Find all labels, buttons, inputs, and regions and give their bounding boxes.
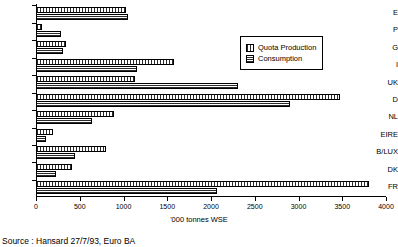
- x-axis-title: '000 tonnes WSE: [0, 215, 398, 224]
- y-axis-label-nl: NL: [364, 113, 398, 121]
- source-note: Source : Hansard 27/7/93, Euro BA: [2, 236, 135, 246]
- bar-chart: EPGIUKDNLEIREB/LUXDKFR 05001000150020002…: [0, 0, 398, 247]
- x-axis-tick-label: 3500: [334, 203, 350, 211]
- x-axis-tick-label: 500: [74, 203, 86, 211]
- bar-i-quota-production: [36, 59, 174, 65]
- bar-g-consumption: [36, 48, 63, 54]
- legend-item-consumption: Consumption: [246, 54, 316, 63]
- y-axis-label-g: G: [364, 44, 398, 52]
- bar-fr-consumption: [36, 188, 217, 194]
- bar-p-consumption: [36, 31, 61, 37]
- x-axis-tick-label: 1500: [159, 203, 175, 211]
- y-axis-label-eire: EIRE: [364, 131, 398, 139]
- bar-b-lux-consumption: [36, 153, 75, 159]
- x-axis-tick: [167, 197, 168, 201]
- legend-label-quota-production: Quota Production: [258, 43, 316, 52]
- y-axis-label-b-lux: B/LUX: [364, 148, 398, 156]
- x-axis-tick: [80, 197, 81, 201]
- y-axis-label-dk: DK: [364, 166, 398, 174]
- x-axis-tick: [124, 197, 125, 201]
- x-axis-tick-label: 2000: [203, 203, 219, 211]
- bar-e-consumption: [36, 14, 128, 20]
- bar-eire-quota-production: [36, 129, 53, 135]
- bar-p-quota-production: [36, 24, 42, 30]
- y-axis-label-e: E: [364, 9, 398, 17]
- legend-swatch-quota-production: [246, 44, 254, 52]
- x-axis-tick-label: 1000: [116, 203, 132, 211]
- x-axis-tick: [211, 197, 212, 201]
- bar-e-quota-production: [36, 7, 126, 13]
- bar-fr-quota-production: [36, 181, 369, 187]
- bar-nl-consumption: [36, 118, 92, 124]
- bar-i-consumption: [36, 66, 137, 72]
- legend-item-quota-production: Quota Production: [246, 43, 316, 52]
- x-axis-tick-label: 3000: [291, 203, 307, 211]
- x-axis-tick-label: 2500: [247, 203, 263, 211]
- bar-d-quota-production: [36, 94, 340, 100]
- x-axis-tick: [386, 197, 387, 201]
- legend: Quota Production Consumption: [240, 36, 323, 70]
- legend-swatch-consumption: [246, 55, 254, 63]
- x-axis-tick-label: 4000: [378, 203, 394, 211]
- bar-g-quota-production: [36, 41, 66, 47]
- bar-uk-quota-production: [36, 76, 135, 82]
- x-axis-tick: [299, 197, 300, 201]
- y-axis-label-i: I: [364, 61, 398, 69]
- x-axis-tick: [255, 197, 256, 201]
- bar-dk-quota-production: [36, 164, 72, 170]
- bar-nl-quota-production: [36, 111, 114, 117]
- bar-d-consumption: [36, 101, 290, 107]
- bar-uk-consumption: [36, 83, 238, 89]
- x-axis-tick: [36, 197, 37, 201]
- y-axis-label-uk: UK: [364, 79, 398, 87]
- bar-eire-consumption: [36, 136, 46, 142]
- y-axis-label-d: D: [364, 96, 398, 104]
- bar-b-lux-quota-production: [36, 146, 106, 152]
- y-axis-label-p: P: [364, 26, 398, 34]
- x-axis-tick: [342, 197, 343, 201]
- x-axis-tick-label: 0: [34, 203, 38, 211]
- bar-dk-consumption: [36, 171, 56, 177]
- legend-label-consumption: Consumption: [258, 54, 302, 63]
